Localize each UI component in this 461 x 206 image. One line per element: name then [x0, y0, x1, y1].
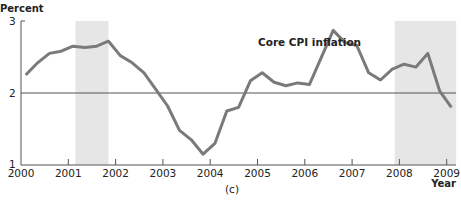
- x-tick-label-2002: 2002: [102, 167, 129, 179]
- y-tick-1: 1: [9, 158, 16, 170]
- x-tick-label-2006: 2006: [291, 167, 318, 179]
- chart-caption: (c): [225, 183, 239, 195]
- y-tick-3: 3: [9, 15, 16, 27]
- core-cpi-chart: 2000200120022003200420052006200720082009…: [0, 0, 461, 206]
- x-tick-label-2008: 2008: [386, 167, 413, 179]
- x-tick-label-2001: 2001: [55, 167, 82, 179]
- y-tick-2: 2: [9, 87, 16, 99]
- x-tick-label-2004: 2004: [197, 167, 224, 179]
- x-tick-label-2007: 2007: [339, 167, 366, 179]
- x-tick-label-2003: 2003: [150, 167, 177, 179]
- x-axis-label: Year: [430, 178, 456, 189]
- series-annotation: Core CPI inflation: [258, 36, 361, 48]
- y-axis-label: Percent: [0, 3, 44, 14]
- x-tick-label-2005: 2005: [244, 167, 271, 179]
